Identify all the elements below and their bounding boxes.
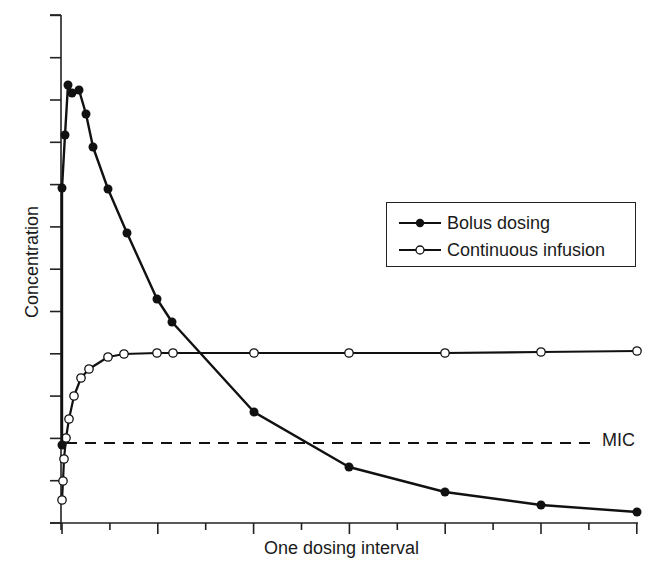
data-point — [58, 496, 66, 504]
data-point — [345, 349, 353, 357]
data-point — [85, 365, 93, 373]
chart-plot-area — [0, 0, 660, 577]
data-point — [82, 110, 91, 119]
data-point — [58, 441, 67, 450]
series-bolus-dosing — [58, 81, 642, 517]
legend-label-bolus: Bolus dosing — [447, 213, 550, 234]
data-point — [89, 143, 98, 152]
data-point — [123, 229, 132, 238]
data-point — [58, 184, 67, 193]
mic-label: MIC — [602, 430, 635, 451]
data-point — [60, 455, 68, 463]
data-point — [345, 463, 354, 472]
data-point — [61, 131, 70, 140]
open-circle-marker-icon — [399, 244, 441, 256]
series-continuous-infusion — [58, 347, 641, 504]
data-point — [441, 349, 449, 357]
data-point — [104, 185, 113, 194]
data-point — [633, 508, 642, 517]
data-point — [120, 350, 128, 358]
data-point — [168, 318, 177, 327]
data-point — [75, 86, 84, 95]
data-point — [153, 295, 162, 304]
data-point — [153, 349, 161, 357]
legend-label-infusion: Continuous infusion — [447, 240, 605, 261]
data-point — [65, 415, 73, 423]
data-point — [537, 501, 546, 510]
data-point — [441, 488, 450, 497]
data-point — [59, 477, 67, 485]
y-axis-label: Concentration — [22, 206, 43, 318]
data-point — [633, 347, 641, 355]
data-point — [537, 348, 545, 356]
legend-item-bolus: Bolus dosing — [387, 210, 550, 236]
chart-legend: Bolus dosing Continuous infusion — [386, 202, 636, 267]
chart-axes — [50, 15, 638, 534]
data-point — [70, 392, 78, 400]
data-point — [250, 408, 259, 417]
legend-item-infusion: Continuous infusion — [387, 237, 605, 263]
filled-circle-marker-icon — [399, 217, 441, 229]
data-point — [169, 349, 177, 357]
x-axis-label: One dosing interval — [264, 538, 419, 559]
data-point — [64, 81, 73, 90]
data-point — [250, 349, 258, 357]
data-point — [77, 374, 85, 382]
data-point — [104, 353, 112, 361]
